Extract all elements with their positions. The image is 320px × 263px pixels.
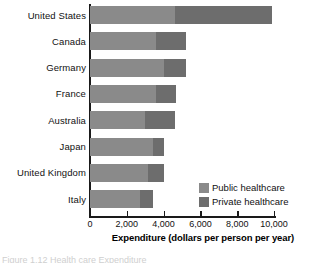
bar-segment-private [148,164,164,182]
bar-united-states [90,6,272,24]
category-label-france: France [0,88,86,99]
category-label-australia: Australia [0,115,86,126]
x-tick-label: 10,000 [260,219,288,230]
bar-germany [90,59,186,77]
bar-segment-public [90,190,140,208]
category-label-japan: Japan [0,141,86,152]
bar-segment-private [156,85,176,103]
public-swatch-icon [199,183,209,193]
bar-segment-public [90,6,175,24]
x-tick-label: 2,000 [116,219,139,230]
category-label-united-states: United States [0,10,86,21]
x-tick-label: 0 [87,219,92,230]
x-tick-mark [164,211,165,217]
bar-italy [90,190,153,208]
category-label-united-kingdom: United Kingdom [0,167,86,178]
x-tick-mark [90,211,91,217]
bar-australia [90,111,175,129]
legend-label-private: Private healthcare [212,196,289,207]
bar-segment-private [156,32,185,50]
private-swatch-icon [199,197,209,207]
bar-united-kingdom [90,164,164,182]
x-tick-label: 4,000 [152,219,175,230]
x-tick-mark [274,211,275,217]
bar-japan [90,138,164,156]
x-tick-mark [237,211,238,217]
x-tick-label: 8,000 [226,219,249,230]
x-tick-label: 6,000 [189,219,212,230]
bar-segment-public [90,164,148,182]
legend-label-public: Public healthcare [212,182,285,193]
category-label-italy: Italy [0,194,86,205]
legend-item-private: Private healthcare [199,195,289,208]
x-tick-mark [127,211,128,217]
bar-segment-private [153,138,164,156]
x-tick-mark [200,211,201,217]
bar-segment-private [145,111,174,129]
bar-segment-public [90,138,153,156]
bar-segment-public [90,111,145,129]
bar-segment-private [175,6,273,24]
bar-segment-public [90,59,164,77]
bar-france [90,85,176,103]
figure-caption: Figure 1.12 Health care Expenditure [2,255,147,263]
bar-segment-private [140,190,153,208]
category-label-canada: Canada [0,36,86,47]
bar-segment-public [90,32,156,50]
bar-segment-public [90,85,156,103]
x-axis-title: Expenditure (dollars per person per year… [90,232,316,243]
healthcare-expenditure-bar-chart: United StatesCanadaGermanyFranceAustrali… [0,0,320,263]
bar-canada [90,32,186,50]
category-label-germany: Germany [0,62,86,73]
legend-item-public: Public healthcare [199,181,289,194]
bar-segment-private [164,59,186,77]
chart-legend: Public healthcare Private healthcare [199,181,289,209]
x-axis-line [89,216,276,218]
